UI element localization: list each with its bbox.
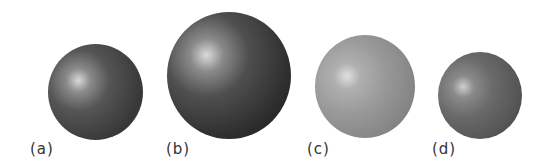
sphere-a	[48, 44, 143, 140]
label-d: (d)	[432, 140, 456, 158]
label-b: (b)	[166, 140, 190, 158]
label-c: (c)	[307, 140, 330, 158]
sphere-c	[315, 35, 415, 138]
label-a: (a)	[30, 140, 54, 158]
sphere-d	[438, 52, 522, 139]
sphere-b	[167, 12, 291, 139]
